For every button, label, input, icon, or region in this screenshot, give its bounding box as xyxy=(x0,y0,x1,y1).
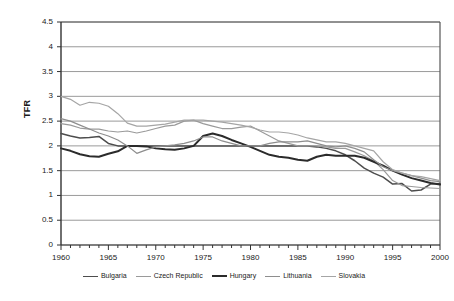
chart-legend: BulgariaCzech RepublicHungaryLithuaniaSl… xyxy=(0,272,448,280)
legend-item-lithuania: Lithuania xyxy=(265,272,311,280)
y-axis-tick-label: 4.5 xyxy=(27,18,53,26)
legend-line-swatch xyxy=(212,275,227,277)
legend-item-bulgaria: Bulgaria xyxy=(83,272,127,280)
legend-label: Bulgaria xyxy=(101,272,127,280)
x-axis-tick-label: 1985 xyxy=(280,254,316,262)
legend-label: Slovakia xyxy=(339,272,365,280)
y-axis-tick-label: 0.5 xyxy=(27,216,53,224)
x-axis-tick-label: 1965 xyxy=(90,254,126,262)
y-axis-title: TFR xyxy=(22,100,32,118)
y-axis-tick-label: 1 xyxy=(27,191,53,199)
x-axis-tick-label: 1990 xyxy=(327,254,363,262)
legend-label: Hungary xyxy=(230,272,256,280)
legend-item-slovakia: Slovakia xyxy=(321,272,365,280)
legend-line-swatch xyxy=(321,276,336,277)
x-axis-tick-label: 1970 xyxy=(138,254,174,262)
y-axis-tick-label: 2 xyxy=(27,142,53,150)
legend-label: Czech Republic xyxy=(154,272,203,280)
series-line-lithuania xyxy=(61,119,440,182)
x-axis-tick-label: 1975 xyxy=(185,254,221,262)
legend-line-swatch xyxy=(136,276,151,277)
y-axis-tick-label: 3 xyxy=(27,92,53,100)
legend-item-hungary: Hungary xyxy=(212,272,256,280)
x-axis-tick-label: 1980 xyxy=(233,254,269,262)
y-axis-tick-label: 1.5 xyxy=(27,167,53,175)
x-axis-tick-label: 1960 xyxy=(43,254,79,262)
x-axis-tick-label: 1995 xyxy=(375,254,411,262)
series-line-slovakia xyxy=(61,96,440,180)
y-axis-tick-label: 3.5 xyxy=(27,68,53,76)
series-line-czech-republic xyxy=(61,120,440,188)
y-axis-tick-label: 4 xyxy=(27,43,53,51)
legend-label: Lithuania xyxy=(283,272,311,280)
legend-item-czech-republic: Czech Republic xyxy=(136,272,203,280)
x-axis-tick-label: 2000 xyxy=(422,254,454,262)
legend-line-swatch xyxy=(265,276,280,277)
legend-line-swatch xyxy=(83,276,98,277)
y-axis-tick-label: 2.5 xyxy=(27,117,53,125)
y-axis-tick-label: 0 xyxy=(27,241,53,249)
